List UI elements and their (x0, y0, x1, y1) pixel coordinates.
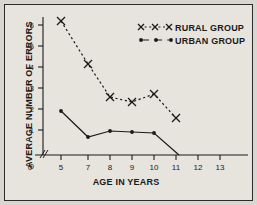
x-tick-label-10: 10 (150, 163, 159, 172)
legend-label-urban: URBAN GROUP (175, 36, 245, 46)
legend-swatch-urban (139, 38, 173, 42)
data-point-urban-7 (86, 135, 90, 139)
y-tick-marks (38, 25, 43, 130)
data-point-rural-9 (128, 98, 136, 106)
axis-break-mark (40, 150, 48, 158)
x-tick-label-5: 5 (59, 163, 64, 172)
legend-label-rural: RURAL GROUP (175, 23, 244, 33)
x-tick-label-11: 11 (172, 163, 181, 172)
chart-svg: 6 5 4 3 2 1 0 (5, 5, 254, 202)
series-line-urban (61, 111, 179, 155)
data-point-rural-11 (172, 114, 180, 122)
series-markers-rural (57, 17, 180, 122)
data-point-urban-10 (152, 131, 156, 135)
x-tick-label-7: 7 (86, 163, 91, 172)
x-tick-label-8: 8 (108, 163, 113, 172)
data-point-urban-5 (59, 109, 63, 113)
series-markers-urban (59, 109, 156, 139)
figure-container: 6 5 4 3 2 1 0 (0, 0, 257, 205)
series-line-rural (61, 21, 176, 118)
y-axis-title: AVERAGE NUMBER OF ERRORS (24, 28, 34, 168)
data-point-rural-7 (84, 60, 92, 68)
data-point-rural-8 (106, 93, 114, 101)
data-point-rural-5 (57, 17, 65, 25)
legend-swatch-rural (138, 24, 172, 30)
data-point-urban-9 (130, 130, 134, 134)
x-axis-title: AGE IN YEARS (61, 177, 191, 187)
data-point-rural-10 (150, 90, 158, 98)
x-tick-marks (61, 155, 220, 160)
plot-surface: 6 5 4 3 2 1 0 (5, 5, 254, 202)
x-tick-label-13: 13 (216, 163, 225, 172)
x-tick-labels: 0 5 7 8 9 10 11 12 13 (28, 163, 225, 172)
data-point-urban-8 (108, 129, 112, 133)
x-tick-label-12: 12 (194, 163, 203, 172)
chart-frame: 6 5 4 3 2 1 0 (4, 4, 253, 201)
x-tick-label-9: 9 (130, 163, 135, 172)
